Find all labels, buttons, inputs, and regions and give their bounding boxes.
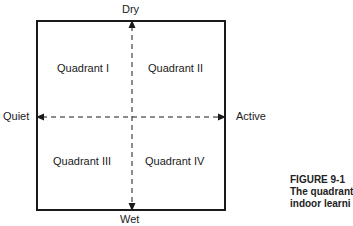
arrow-right-icon	[218, 114, 226, 121]
caption-line-1: The quadrant	[290, 186, 353, 198]
arrow-down-icon	[129, 203, 136, 211]
axis-label-wet: Wet	[120, 213, 139, 225]
quadrant-1-label: Quadrant I	[57, 62, 109, 74]
quadrant-4-label: Quadrant IV	[145, 155, 204, 167]
caption-line-2: indoor learni	[290, 198, 353, 210]
quadrant-3-label: Quadrant III	[53, 155, 111, 167]
figure-number: FIGURE 9-1	[290, 174, 353, 186]
axis-label-active: Active	[236, 110, 266, 122]
arrow-left-icon	[36, 114, 44, 121]
axis-label-quiet: Quiet	[3, 110, 29, 122]
figure-caption: FIGURE 9-1 The quadrant indoor learni	[290, 174, 353, 210]
quadrant-2-label: Quadrant II	[148, 62, 203, 74]
arrow-up-icon	[129, 20, 136, 28]
axis-label-dry: Dry	[122, 3, 139, 15]
